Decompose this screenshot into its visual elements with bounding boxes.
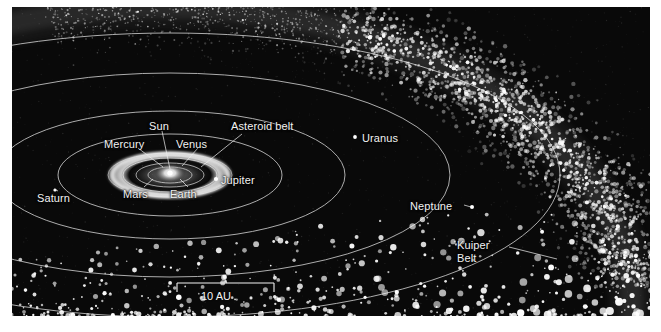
- label-venus: Venus: [176, 138, 207, 150]
- solar-system-figure: Sun Mercury Venus Asteroid belt Mars Ear…: [0, 0, 661, 332]
- label-jupiter: Jupiter: [221, 174, 255, 186]
- diagram-canvas: [12, 7, 650, 316]
- label-mars: Mars: [123, 188, 148, 200]
- marker-jupiter: [214, 177, 218, 181]
- label-uranus: Uranus: [362, 132, 398, 144]
- label-saturn: Saturn: [37, 192, 70, 204]
- sun-core: [167, 170, 172, 175]
- label-neptune: Neptune: [410, 200, 452, 212]
- label-kuiper-belt-line1: Kuiper: [457, 239, 489, 252]
- scale-bar-label: 10 AU: [201, 290, 231, 302]
- diagram-plate: Sun Mercury Venus Asteroid belt Mars Ear…: [12, 7, 650, 316]
- label-earth: Earth: [170, 188, 197, 200]
- label-kuiper-belt-line2: Belt: [457, 252, 476, 265]
- label-sun: Sun: [149, 120, 169, 132]
- marker-uranus: [353, 135, 357, 139]
- label-asteroid-belt: Asteroid belt: [231, 120, 293, 132]
- label-mercury: Mercury: [104, 138, 144, 150]
